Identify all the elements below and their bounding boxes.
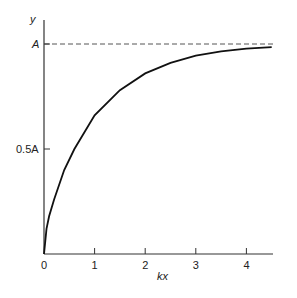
- y-axis-label: y: [29, 13, 37, 25]
- x-tick-label: 0: [41, 259, 47, 271]
- y-tick-label-A: A: [31, 38, 39, 50]
- x-tick-labels: 01234: [41, 259, 250, 271]
- x-tick-label: 1: [92, 259, 98, 271]
- y-tick-label-half: 0.5A: [16, 143, 39, 155]
- x-tick-label: 3: [193, 259, 199, 271]
- data-curve: [44, 47, 272, 254]
- x-axis-label: kx: [157, 270, 169, 282]
- x-ticks: [95, 248, 247, 254]
- x-tick-label: 4: [243, 259, 249, 271]
- saturation-curve-chart: y A 0.5A kx 01234: [0, 0, 297, 298]
- x-tick-label: 2: [142, 259, 148, 271]
